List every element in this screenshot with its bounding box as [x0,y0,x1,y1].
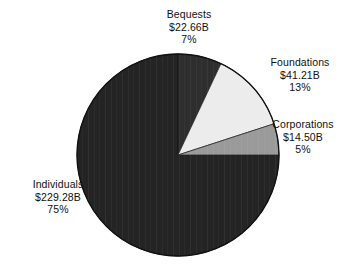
pie-label-individuals-name: Individuals [10,178,106,191]
pie-label-corporations: Corporations $14.50B 5% [250,118,356,156]
pie-label-bequests: Bequests $22.66B 7% [141,8,237,46]
pie-label-individuals-value: $229.28B [10,191,106,204]
pie-label-corporations-percent: 5% [250,143,356,156]
pie-chart: Bequests $22.66B 7% Foundations $41.21B … [0,0,364,265]
pie-label-bequests-value: $22.66B [141,21,237,34]
pie-label-foundations-value: $41.21B [248,69,352,82]
pie-label-foundations-name: Foundations [248,56,352,69]
pie-label-foundations-percent: 13% [248,81,352,94]
pie-label-individuals-percent: 75% [10,203,106,216]
pie-label-bequests-name: Bequests [141,8,237,21]
pie-label-bequests-percent: 7% [141,33,237,46]
pie-label-corporations-name: Corporations [250,118,356,131]
pie-label-corporations-value: $14.50B [250,131,356,144]
pie-label-individuals: Individuals $229.28B 75% [10,178,106,216]
pie-label-foundations: Foundations $41.21B 13% [248,56,352,94]
